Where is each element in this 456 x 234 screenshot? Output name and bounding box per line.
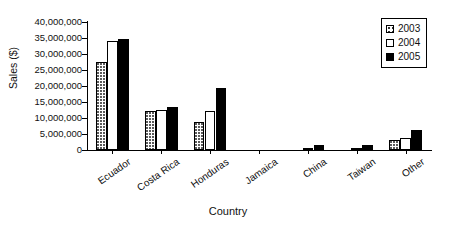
x-axis-tick [357,150,358,154]
legend-item-2005: 2005 [386,50,420,64]
y-axis-tick [82,102,87,103]
legend-label-2004: 2004 [398,38,420,48]
x-axis-label-china: China [301,156,329,180]
y-axis-tick-label: 20,000,000 [14,81,82,91]
x-axis-tick [259,150,260,154]
x-axis-tick [161,150,162,154]
bar-costa-rica-2003 [145,111,156,150]
y-axis-tick-label: 0 [14,145,82,155]
x-axis-label-costa-rica: Costa Rica [135,156,181,193]
y-axis-tick [82,54,87,55]
bar-ecuador-2004 [107,41,118,150]
y-axis-tick [82,22,87,23]
bar-other-2005 [411,130,422,150]
legend-label-2003: 2003 [398,24,420,34]
legend-swatch-2004 [386,39,394,47]
bar-honduras-2004 [205,111,216,150]
bar-other-2004 [400,138,411,150]
bar-costa-rica-2005 [167,107,178,150]
x-axis-tick [308,150,309,154]
x-axis-tick [210,150,211,154]
x-axis-title: Country [0,205,456,217]
legend-swatch-2005 [386,53,394,61]
bar-china-2005 [314,145,325,150]
chart-legend: 200320042005 [381,18,427,68]
bar-group [96,22,129,150]
bar-group [243,22,276,150]
x-axis-label-honduras: Honduras [189,156,231,190]
bar-costa-rica-2004 [156,110,167,150]
bar-honduras-2003 [194,122,205,150]
x-axis-tick [406,150,407,154]
bar-ecuador-2005 [118,39,129,150]
chart-figure: 40,000,00035,000,00030,000,00025,000,000… [0,0,456,234]
bar-honduras-2005 [216,88,227,150]
legend-label-2005: 2005 [398,52,420,62]
bar-group [145,22,178,150]
y-axis-tick-label: 10,000,000 [14,113,82,123]
y-axis-tick-label: 40,000,000 [14,17,82,27]
y-axis-tick-label: 35,000,000 [14,33,82,43]
bar-taiwan-2005 [362,145,373,150]
plot-area [88,22,430,150]
y-axis-tick [82,118,87,119]
legend-swatch-2003 [386,25,394,33]
bar-group [194,22,227,150]
y-axis-tick [82,134,87,135]
y-axis-tick-label: 25,000,000 [14,65,82,75]
x-axis-label-jamaica: Jamaica [243,156,280,186]
legend-item-2003: 2003 [386,22,420,36]
y-axis-title: Sales ($) [7,38,19,98]
y-axis-tick-label: 30,000,000 [14,49,82,59]
y-axis-tick [82,38,87,39]
bar-ecuador-2003 [96,62,107,150]
bar-group [340,22,373,150]
y-axis-tick-labels: 40,000,00035,000,00030,000,00025,000,000… [0,0,82,234]
bar-other-2003 [389,140,400,150]
x-axis-label-taiwan: Taiwan [345,156,377,183]
y-axis-tick-label: 15,000,000 [14,97,82,107]
x-axis-label-ecuador: Ecuador [96,156,133,186]
y-axis-tick [82,70,87,71]
bar-group [292,22,325,150]
y-axis-tick [82,150,87,151]
legend-item-2004: 2004 [386,36,420,50]
y-axis-tick-label: 5,000,000 [14,129,82,139]
x-axis-tick [112,150,113,154]
y-axis-tick [82,86,87,87]
x-axis-label-other: Other [399,156,426,179]
